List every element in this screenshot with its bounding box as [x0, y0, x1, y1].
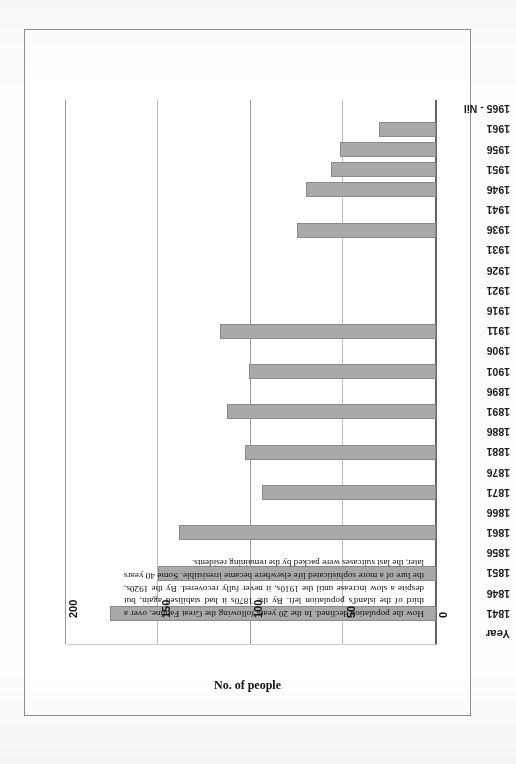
chart-row: 1881: [67, 442, 436, 462]
y-axis-title: Year: [440, 624, 510, 644]
category-label-1906: 1906: [440, 341, 510, 361]
chart-row: 1921: [67, 281, 436, 301]
bar-1911[interactable]: [220, 324, 436, 339]
category-label-1961: 1961: [440, 119, 510, 139]
chart-row: 1896: [67, 382, 436, 402]
chart-row: Year: [67, 624, 436, 644]
chart-row: 1901: [67, 361, 436, 381]
category-label-1901: 1901: [440, 361, 510, 381]
chart-row: 1951: [67, 160, 436, 180]
category-label-1866: 1866: [440, 503, 510, 523]
rotated-figure-layer: Year184118461851185618611866187118761881…: [25, 30, 470, 715]
category-label-1846: 1846: [440, 583, 510, 603]
bar-1936[interactable]: [297, 223, 436, 238]
category-label-1871: 1871: [440, 483, 510, 503]
category-label-1841: 1841: [440, 604, 510, 624]
bar-1861[interactable]: [179, 526, 436, 541]
chart-row: 1876: [67, 462, 436, 482]
bar-1871[interactable]: [262, 485, 436, 500]
category-label-1931: 1931: [440, 240, 510, 260]
category-label-1891: 1891: [440, 402, 510, 422]
chart-row: 1866: [67, 503, 436, 523]
category-label-1951: 1951: [440, 160, 510, 180]
bar-1961[interactable]: [379, 122, 436, 137]
bar-1891[interactable]: [227, 404, 436, 419]
figure-frame: Year184118461851185618611866187118761881…: [24, 29, 471, 716]
category-label-1965-Nil: 1965 - Nil: [440, 99, 510, 119]
bar-1946[interactable]: [307, 182, 437, 197]
chart-row: 1911: [67, 321, 436, 341]
chart-row: 1936: [67, 220, 436, 240]
chart-row: 1926: [67, 261, 436, 281]
category-label-1896: 1896: [440, 382, 510, 402]
chart-row: 1891: [67, 402, 436, 422]
category-label-1921: 1921: [440, 281, 510, 301]
chart-row: 1931: [67, 240, 436, 260]
chart-row: 1916: [67, 301, 436, 321]
category-label-1936: 1936: [440, 220, 510, 240]
category-label-1956: 1956: [440, 139, 510, 159]
bar-1901[interactable]: [249, 364, 436, 379]
gridline-200: [65, 100, 66, 644]
chart-row: 1956: [67, 139, 436, 159]
chart-row: 1886: [67, 422, 436, 442]
category-label-1851: 1851: [440, 563, 510, 583]
bar-1956[interactable]: [340, 142, 436, 157]
category-label-1886: 1886: [440, 422, 510, 442]
category-label-1926: 1926: [440, 260, 510, 280]
bar-1881[interactable]: [245, 445, 436, 460]
chart-row: 1965 - Nil: [67, 99, 436, 119]
category-label-1856: 1856: [440, 543, 510, 563]
category-label-1861: 1861: [440, 523, 510, 543]
category-label-1916: 1916: [440, 301, 510, 321]
chart-row: 1861: [67, 523, 436, 543]
chart-row: 1871: [67, 483, 436, 503]
category-label-1946: 1946: [440, 180, 510, 200]
category-label-1876: 1876: [440, 462, 510, 482]
scanned-page: Year184118461851185618611866187118761881…: [0, 0, 516, 764]
chart-row: 1906: [67, 341, 436, 361]
category-label-1911: 1911: [440, 321, 510, 341]
chart-row: 1941: [67, 200, 436, 220]
bar-1951[interactable]: [331, 162, 436, 177]
chart-row: 1946: [67, 180, 436, 200]
figure-caption: How the population declined. In the 20 y…: [124, 557, 424, 620]
chart-row: 1961: [67, 119, 436, 139]
category-label-1941: 1941: [440, 200, 510, 220]
category-label-1881: 1881: [440, 442, 510, 462]
